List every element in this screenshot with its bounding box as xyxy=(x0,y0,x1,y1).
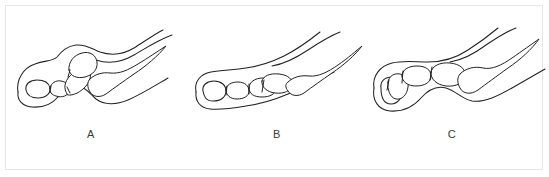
panel-b-distal-phalanx xyxy=(226,82,249,99)
panel-a-proximal-phalanx xyxy=(69,52,97,77)
panel-a-distal-tip xyxy=(26,80,50,98)
panel-b-metatarsal xyxy=(286,46,362,95)
panel-c-middle-phalanx xyxy=(402,66,431,86)
panel-b-distal-tip xyxy=(203,81,226,101)
panel-c-metatarsal xyxy=(458,39,539,93)
panel-a-metatarsal xyxy=(88,46,166,96)
panel-c-dorsal-inner-contour xyxy=(450,28,516,62)
figure-container: A B C xyxy=(0,0,549,177)
panel-c-drawing xyxy=(374,28,545,111)
panel-a-drawing xyxy=(18,30,172,107)
panel-label-a: A xyxy=(79,128,103,140)
panel-b-drawing xyxy=(196,32,362,109)
anatomical-diagram-svg xyxy=(0,0,549,177)
panel-b-dorsal-inner-contour xyxy=(272,32,340,66)
panel-label-c: C xyxy=(440,128,464,140)
panel-label-b: B xyxy=(265,128,289,140)
